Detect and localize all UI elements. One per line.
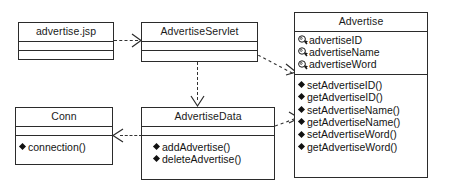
operation-row: getAdvertiseID() xyxy=(298,91,425,103)
operation-label: addAdvertise() xyxy=(162,141,230,153)
operation-label: setAdvertiseName() xyxy=(307,104,400,116)
attribute-label: advertiseWord xyxy=(309,58,377,70)
operation-row: getAdvertiseName() xyxy=(298,116,425,128)
operation-row: deleteAdvertise() xyxy=(153,153,272,165)
class-box-conn[interactable]: Conn connection() xyxy=(15,107,113,165)
operation-diamond-icon xyxy=(19,141,28,153)
operation-diamond-icon xyxy=(153,141,162,153)
class-box-advertise-servlet[interactable]: AdvertiseServlet xyxy=(141,22,258,62)
operation-label: deleteAdvertise() xyxy=(162,153,241,165)
operation-diamond-icon xyxy=(298,91,307,103)
operations-compartment-advertise-jsp xyxy=(19,51,113,62)
class-name-advertise-jsp: advertise.jsp xyxy=(19,23,113,42)
operation-label: setAdvertiseWord() xyxy=(307,128,397,140)
private-attribute-icon xyxy=(298,46,309,58)
operation-diamond-icon xyxy=(298,104,307,116)
attributes-compartment-advertise-jsp xyxy=(19,42,113,51)
class-box-advertise-data[interactable]: AdvertiseData addAdvertise() deleteAdver… xyxy=(141,107,275,180)
attributes-compartment-advertise: advertiseID advertiseName xyxy=(295,32,427,75)
attribute-label: advertiseID xyxy=(309,34,362,46)
attribute-row: advertiseName xyxy=(298,46,425,58)
operation-row: setAdvertiseName() xyxy=(298,104,425,116)
operation-label: getAdvertiseWord() xyxy=(307,141,397,153)
class-box-advertise-jsp[interactable]: advertise.jsp xyxy=(18,22,114,60)
class-name-advertise-servlet: AdvertiseServlet xyxy=(142,23,257,42)
attribute-label: advertiseName xyxy=(309,46,380,58)
attribute-row: advertiseWord xyxy=(298,58,425,70)
operation-label: getAdvertiseID() xyxy=(307,91,383,103)
operations-compartment-conn: connection() xyxy=(16,136,112,156)
class-name-advertise: Advertise xyxy=(295,13,427,32)
operations-compartment-advertise: setAdvertiseID() getAdvertiseID() setAdv… xyxy=(295,75,427,156)
attribute-row: advertiseID xyxy=(298,34,425,46)
operation-label: getAdvertiseName() xyxy=(307,116,400,128)
uml-class-diagram-canvas: advertise.jsp AdvertiseServlet Advertise xyxy=(0,0,450,190)
operation-diamond-icon xyxy=(298,141,307,153)
attributes-compartment-advertise-servlet xyxy=(142,42,257,51)
class-box-advertise[interactable]: Advertise advertiseID xyxy=(294,12,428,178)
operation-diamond-icon xyxy=(298,79,307,91)
operations-compartment-advertise-servlet xyxy=(142,51,257,62)
operation-label: setAdvertiseID() xyxy=(307,79,382,91)
operation-row: setAdvertiseID() xyxy=(298,79,425,91)
operation-row: connection() xyxy=(19,141,110,153)
attributes-compartment-conn xyxy=(16,127,112,136)
class-name-advertise-data: AdvertiseData xyxy=(142,108,274,127)
operation-diamond-icon xyxy=(153,153,162,165)
operation-row: getAdvertiseWord() xyxy=(298,141,425,153)
operation-row: setAdvertiseWord() xyxy=(298,128,425,140)
operation-diamond-icon xyxy=(298,129,307,141)
operation-diamond-icon xyxy=(298,116,307,128)
class-name-conn: Conn xyxy=(16,108,112,127)
private-attribute-icon xyxy=(298,59,309,71)
operations-compartment-advertise-data: addAdvertise() deleteAdvertise() xyxy=(142,136,274,169)
private-attribute-icon xyxy=(298,34,309,46)
operation-label: connection() xyxy=(28,141,86,153)
operation-row: addAdvertise() xyxy=(153,141,272,153)
attributes-compartment-advertise-data xyxy=(142,127,274,136)
